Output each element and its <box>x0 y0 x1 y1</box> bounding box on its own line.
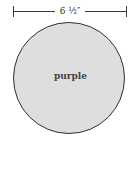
circle-label: purple <box>13 71 128 81</box>
dimension-label: 6 ½″ <box>55 4 85 18</box>
dimension-tick-right <box>126 6 127 17</box>
dimension-tick-left <box>13 6 14 17</box>
